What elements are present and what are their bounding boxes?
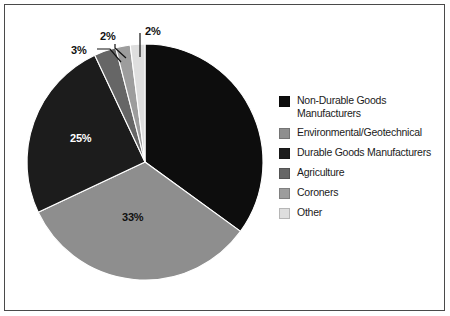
legend-item[interactable]: Coroners (279, 186, 441, 199)
legend-color-swatch (279, 168, 290, 179)
legend-item[interactable]: Agriculture (279, 166, 441, 179)
legend-color-swatch (279, 96, 290, 107)
legend-item[interactable]: Non-Durable Goods Manufacturers (279, 94, 441, 119)
legend-item[interactable]: Durable Goods Manufacturers (279, 146, 441, 159)
legend-item[interactable]: Environmental/Geotechnical (279, 126, 441, 139)
legend-item-label: Other (297, 206, 322, 219)
slice-value-label-agriculture: 3% (71, 45, 87, 56)
legend-item-label: Coroners (297, 186, 338, 199)
legend-item-label: Agriculture (297, 166, 344, 179)
pie-chart-figure: 25% 33% 3% 2% 2% Non-Durable Goods Manuf… (0, 0, 450, 316)
chart-legend: Non-Durable Goods ManufacturersEnvironme… (279, 94, 441, 226)
legend-item-label: Non-Durable Goods Manufacturers (297, 94, 441, 119)
legend-color-swatch (279, 188, 290, 199)
slice-value-label-durable-goods: 25% (70, 133, 91, 144)
slice-value-label-environmental: 33% (122, 212, 143, 223)
pie-slice-group (27, 44, 263, 280)
legend-item-label: Durable Goods Manufacturers (297, 146, 431, 159)
legend-item-label: Environmental/Geotechnical (297, 126, 422, 139)
slice-value-label-other: 2% (145, 26, 161, 37)
slice-value-label-coroners: 2% (100, 31, 116, 42)
legend-color-swatch (279, 148, 290, 159)
legend-color-swatch (279, 128, 290, 139)
legend-item[interactable]: Other (279, 206, 441, 219)
legend-color-swatch (279, 208, 290, 219)
